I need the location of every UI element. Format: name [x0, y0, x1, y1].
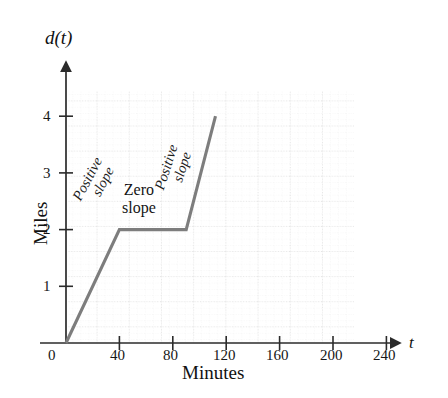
y-axis-title: Miles [30, 202, 52, 245]
x-tick-label-240: 240 [373, 347, 396, 364]
y-tick-label-1: 1 [43, 278, 51, 295]
x-tick-label-40: 40 [110, 347, 125, 364]
x-axis-variable-label: t [409, 333, 414, 353]
distance-time-graph-figure: d(t) t 1 2 3 4 0 40 80 120 160 200 240 M… [0, 0, 448, 398]
x-axis-title: Minutes [182, 362, 244, 384]
x-tick-label-200: 200 [320, 347, 343, 364]
chart-canvas [0, 0, 448, 398]
x-tick-label-160: 160 [266, 347, 289, 364]
y-axis-function-label: d(t) [45, 27, 72, 49]
x-tick-label-80: 80 [163, 347, 178, 364]
y-tick-label-3: 3 [43, 165, 51, 182]
annotation-zero-slope-line1: Zero [122, 181, 156, 199]
origin-label: 0 [48, 347, 56, 364]
annotation-zero-slope-line2: slope [122, 199, 156, 217]
y-tick-label-4: 4 [43, 108, 51, 125]
